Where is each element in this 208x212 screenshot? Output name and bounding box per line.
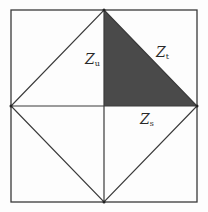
vertex-right bbox=[196, 105, 199, 108]
vertex-left bbox=[10, 105, 13, 108]
label-zs-sub: s bbox=[150, 119, 154, 128]
vertex-top bbox=[103, 9, 106, 12]
label-zt: Zt bbox=[156, 45, 169, 59]
label-zu-main: Z bbox=[85, 51, 95, 67]
label-zs: Zs bbox=[140, 112, 154, 126]
label-zs-main: Z bbox=[140, 111, 150, 127]
label-zt-sub: t bbox=[166, 52, 169, 61]
vertex-bottom bbox=[103, 201, 106, 204]
label-zu-sub: u bbox=[95, 59, 100, 68]
diagram-canvas bbox=[0, 0, 208, 212]
label-zt-main: Z bbox=[156, 44, 166, 60]
label-zu: Zu bbox=[85, 52, 100, 66]
